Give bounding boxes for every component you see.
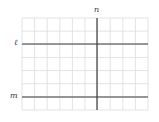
line-n-label: n — [94, 6, 99, 14]
line-m-label: m — [10, 92, 18, 100]
diagram-canvas — [0, 0, 159, 122]
line-l-label: ℓ — [14, 39, 17, 47]
